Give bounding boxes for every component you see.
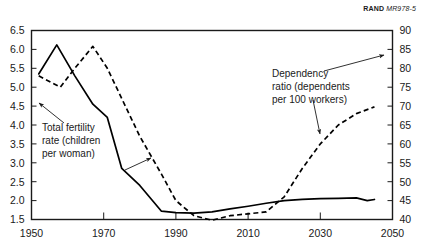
right-axis-tick-labels: 4045505560657075808590 [400,24,412,225]
left-tick-label: 3.5 [10,138,25,150]
left-tick-label: 6.5 [10,24,25,36]
x-axis-ticks [104,213,321,220]
left-tick-label: 5.0 [10,81,25,93]
left-tick-label: 2.5 [10,176,25,188]
line-chart: 1.52.02.53.03.54.04.55.05.56.06.5 404550… [0,0,425,247]
left-axis-ticks [32,31,37,220]
x-tick-label: 1990 [164,227,188,239]
dependency-annotation-line-3: per 100 workers) [272,94,347,105]
left-axis-tick-labels: 1.52.02.53.03.54.04.55.05.56.06.5 [10,24,25,225]
figure-container: RANDMR978-5 1.52.02.53.03.54.04.55.05.56… [0,0,425,247]
x-axis-tick-labels: 195019701990201020302050 [20,227,405,239]
left-tick-label: 4.0 [10,119,25,131]
x-tick-label: 2010 [236,227,260,239]
fertility-annotation-line-3: per woman) [42,148,95,159]
x-tick-label: 1950 [20,227,44,239]
right-tick-label: 65 [400,119,412,131]
left-tick-label: 3.0 [10,157,25,169]
right-tick-label: 45 [400,194,412,206]
dependency-annotation-line-1: Dependency [272,68,328,79]
right-tick-label: 60 [400,138,412,150]
right-tick-label: 50 [400,176,412,188]
dependency-annotation-line-2: ratio (dependents [272,81,350,92]
x-tick-label: 2050 [381,227,405,239]
right-tick-label: 40 [400,213,412,225]
right-tick-label: 85 [400,43,412,55]
fertility-annotation-line-1: Total fertility [42,122,95,133]
x-tick-label: 1970 [92,227,116,239]
fertility-annotation-text: Total fertility rate (children per woman… [42,122,100,159]
left-tick-label: 5.5 [10,62,25,74]
left-tick-label: 4.5 [10,100,25,112]
fertility-annotation-line-2: rate (children [42,135,100,146]
right-tick-label: 70 [400,100,412,112]
right-tick-label: 75 [400,81,412,93]
x-tick-label: 2030 [309,227,333,239]
right-tick-label: 90 [400,24,412,36]
right-tick-label: 55 [400,157,412,169]
dependency-annotation-text: Dependency ratio (dependents per 100 wor… [272,68,350,105]
right-axis-ticks [388,31,393,220]
left-tick-label: 6.0 [10,43,25,55]
left-tick-label: 2.0 [10,194,25,206]
right-tick-label: 80 [400,62,412,74]
left-tick-label: 1.5 [10,213,25,225]
